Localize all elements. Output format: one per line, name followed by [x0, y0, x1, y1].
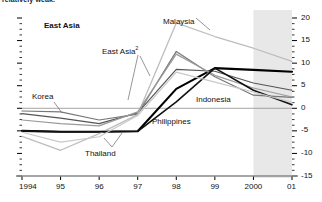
- series-label-philippines: Philippines: [152, 118, 191, 126]
- y-axis-tick-label: 0: [301, 104, 305, 112]
- y-axis-tick-label: 15: [301, 36, 310, 44]
- line-chart-canvas: [0, 0, 322, 202]
- y-axis-tick-label: -5: [301, 126, 308, 134]
- series-label-east-asia: East Asia2: [102, 46, 138, 56]
- x-axis-tick-label: 99: [210, 183, 219, 191]
- series-label-east-asia: East Asia: [44, 22, 80, 30]
- x-axis-tick-label: 96: [95, 183, 104, 191]
- series-line-east-asia2: [22, 69, 292, 123]
- superscript-marker: 2: [135, 45, 138, 51]
- y-axis-tick-label: 10: [301, 59, 310, 67]
- x-axis-tick-label: 95: [56, 183, 65, 191]
- chart-root: relatively weak. 20151050-5-10-15 199495…: [0, 0, 322, 202]
- series-label-indonesia: Indonesia: [196, 96, 231, 104]
- series-label-malaysia: Malaysia: [163, 18, 195, 26]
- y-axis-tick-label: 20: [301, 14, 310, 22]
- x-axis-tick-label: 1994: [19, 183, 37, 191]
- series-label-korea: Korea: [32, 93, 53, 101]
- x-axis-tick-label: 01: [287, 183, 296, 191]
- x-axis-tick-label: 2000: [245, 183, 263, 191]
- y-axis-tick-label: -15: [301, 172, 313, 180]
- y-axis-tick-label: -10: [301, 149, 313, 157]
- series-label-thailand: Thailand: [85, 150, 116, 158]
- y-axis-tick-label: 5: [301, 81, 305, 89]
- data-series-lines: [22, 23, 292, 150]
- x-axis-tick-label: 98: [172, 183, 181, 191]
- x-axis-tick-label: 97: [133, 183, 142, 191]
